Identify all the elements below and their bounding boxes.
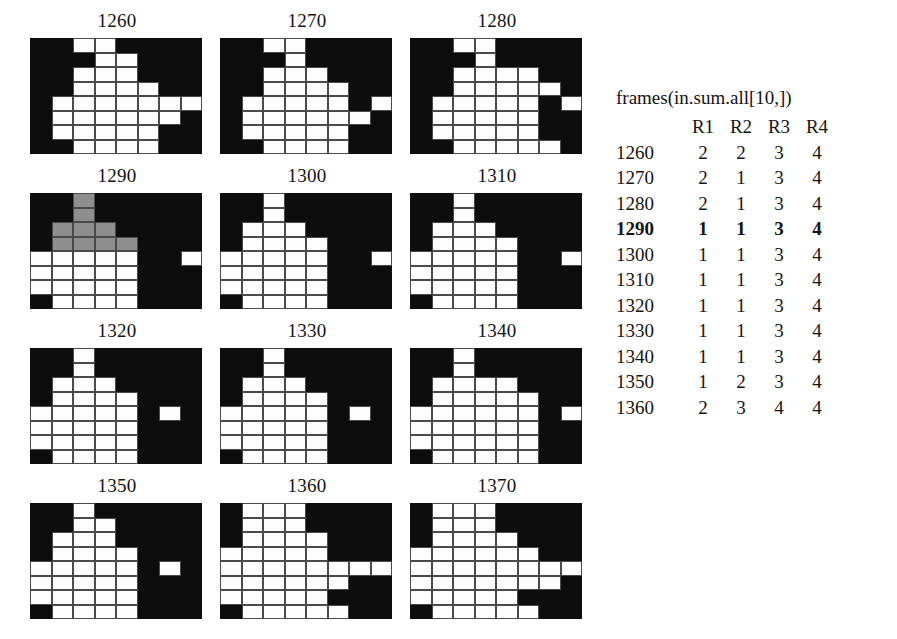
grid-cell — [263, 605, 285, 620]
table-cell: 2 — [684, 140, 722, 166]
grid-cell — [410, 348, 432, 363]
grid-cell — [453, 82, 475, 97]
grid-cell — [73, 251, 95, 266]
grid-cell — [73, 450, 95, 465]
grid-cell — [159, 518, 181, 533]
grid-cell — [496, 67, 518, 82]
table-cell: 1 — [722, 344, 760, 370]
grid-cell — [306, 503, 328, 518]
grid-cell — [242, 590, 264, 605]
grid-cell — [410, 590, 432, 605]
grid-cell — [95, 280, 117, 295]
grid-cell — [496, 38, 518, 53]
grid-cell — [242, 450, 264, 465]
grid-cell — [138, 295, 160, 310]
grid-cell — [496, 590, 518, 605]
grid-cell — [410, 363, 432, 378]
grid-cell — [496, 193, 518, 208]
grid-cell — [73, 193, 95, 208]
grid-cell — [285, 576, 307, 591]
table-cell: 3 — [722, 395, 760, 421]
grid-cell — [285, 421, 307, 436]
grid-cell — [159, 111, 181, 126]
grid-cell — [328, 421, 350, 436]
grid-cell — [95, 590, 117, 605]
grid-cell — [371, 532, 393, 547]
panel-title: 1370 — [402, 475, 592, 501]
grid-cell — [263, 96, 285, 111]
table-cell: 2 — [684, 165, 722, 191]
grid-cell — [518, 576, 540, 591]
grid-cell — [453, 503, 475, 518]
grid-cell — [30, 392, 52, 407]
grid-cell — [242, 38, 264, 53]
grid-cell — [539, 605, 561, 620]
grid-cell — [95, 96, 117, 111]
table-corner-blank — [616, 114, 684, 140]
grid-cell — [432, 96, 454, 111]
grid-cell — [30, 82, 52, 97]
panel-canvas — [220, 503, 392, 619]
table-header-row: R1R2R3R4 — [616, 114, 836, 140]
panel-1370: 1370 — [402, 475, 592, 630]
grid-cell — [432, 576, 454, 591]
grid-cell — [496, 547, 518, 562]
grid-cell — [220, 377, 242, 392]
grid-cell — [138, 547, 160, 562]
grid-cell — [410, 96, 432, 111]
grid-cell — [410, 295, 432, 310]
grid-cell — [220, 67, 242, 82]
grid-cell — [496, 222, 518, 237]
panel-1280: 1280 — [402, 10, 592, 165]
grid-cell — [561, 295, 583, 310]
grid-cell — [181, 392, 203, 407]
grid-cell — [561, 96, 583, 111]
grid-cell — [371, 590, 393, 605]
row-label: 1340 — [616, 344, 684, 370]
grid-cell — [95, 208, 117, 223]
grid-cell — [159, 377, 181, 392]
grid-cell — [73, 421, 95, 436]
grid-cell — [73, 82, 95, 97]
grid-cell — [95, 193, 117, 208]
grid-cell — [181, 53, 203, 68]
grid-cell — [475, 392, 497, 407]
table-cell: 4 — [798, 344, 836, 370]
table-cell: 4 — [798, 242, 836, 268]
grid-cell — [371, 266, 393, 281]
grid-cell — [371, 363, 393, 378]
grid-cell — [116, 406, 138, 421]
grid-cell — [95, 140, 117, 155]
grid-cell — [539, 421, 561, 436]
table-cell: 1 — [684, 242, 722, 268]
grid-cell — [220, 561, 242, 576]
grid-cell — [30, 125, 52, 140]
grid-cell — [475, 421, 497, 436]
grid-cell — [453, 561, 475, 576]
grid-cell — [432, 421, 454, 436]
grid-cell — [306, 140, 328, 155]
grid-cell — [561, 406, 583, 421]
grid-cell — [285, 561, 307, 576]
grid-cell — [242, 518, 264, 533]
grid-cell — [159, 82, 181, 97]
grid-cell — [371, 503, 393, 518]
grid-cell — [518, 518, 540, 533]
grid-cell — [116, 377, 138, 392]
grid-cell — [539, 363, 561, 378]
grid-cell — [220, 140, 242, 155]
column-header-R3: R3 — [760, 114, 798, 140]
grid-cell — [349, 140, 371, 155]
grid-cell — [306, 518, 328, 533]
grid-cell — [561, 193, 583, 208]
grid-cell — [116, 518, 138, 533]
grid-cell — [73, 576, 95, 591]
grid-cell — [453, 450, 475, 465]
grid-cell — [285, 67, 307, 82]
grid-cell — [242, 295, 264, 310]
panel-title: 1290 — [22, 165, 212, 191]
grid-cell — [561, 392, 583, 407]
grid-cell — [475, 266, 497, 281]
table-cell: 2 — [684, 395, 722, 421]
table-cell: 3 — [760, 140, 798, 166]
